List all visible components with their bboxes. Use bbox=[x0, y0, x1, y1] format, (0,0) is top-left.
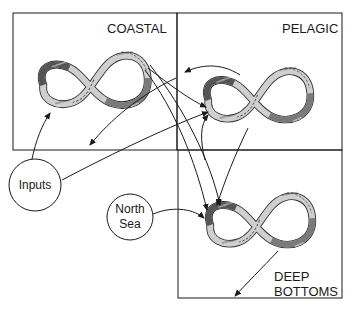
deep-label: DEEP bbox=[274, 269, 309, 284]
coastal-label: COASTAL bbox=[107, 21, 167, 36]
adaptive-cycle-diagram: COASTAL PELAGIC DEEP BOTTOMS reorganizat… bbox=[0, 0, 352, 309]
pelagic-label: PELAGIC bbox=[282, 21, 338, 36]
north-sea-label-line1: North bbox=[115, 202, 144, 216]
inputs-label: Inputs bbox=[19, 178, 52, 192]
bottoms-label: BOTTOMS bbox=[274, 284, 338, 299]
north-sea-label-line2: Sea bbox=[119, 217, 141, 231]
coastal-cycle: reorganization exploitation conservation… bbox=[42, 50, 148, 109]
deep-bottoms-cycle: reorganization exploitation conservation… bbox=[209, 190, 313, 248]
pelagic-cycle: reorganization exploitation conservation… bbox=[207, 65, 311, 123]
